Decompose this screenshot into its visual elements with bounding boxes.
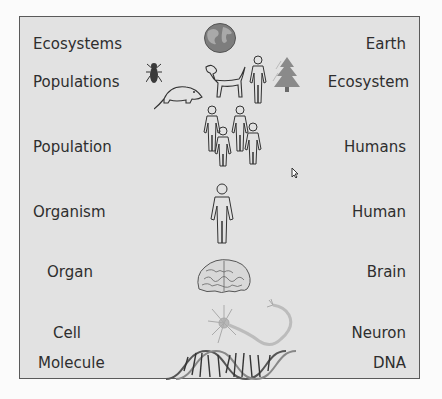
mouse-cursor-icon xyxy=(290,167,300,179)
example-label-neuron: Neuron xyxy=(352,324,406,342)
level-label-ecosystems: Ecosystems xyxy=(33,35,122,53)
brain-icon xyxy=(196,259,252,295)
level-label-organ: Organ xyxy=(47,263,93,281)
group-of-people-icon xyxy=(198,105,268,177)
neuron-icon xyxy=(202,299,312,349)
human-figure-icon xyxy=(209,183,235,245)
level-label-populations: Populations xyxy=(33,73,120,91)
dna-helix-icon xyxy=(164,349,300,381)
level-label-molecule: Molecule xyxy=(38,354,105,372)
example-label-humans: Humans xyxy=(344,138,406,156)
human-figure-small-icon xyxy=(248,55,268,105)
level-label-cell: Cell xyxy=(53,324,81,342)
example-label-human: Human xyxy=(352,203,406,221)
globe-icon xyxy=(203,22,237,54)
example-label-dna: DNA xyxy=(373,354,406,372)
dog-icon xyxy=(200,63,246,99)
example-label-ecosystem: Ecosystem xyxy=(328,73,409,91)
example-label-earth: Earth xyxy=(366,35,406,53)
levels-diagram-frame: Ecosystems Populations Population Organi… xyxy=(19,16,420,379)
level-label-organism: Organism xyxy=(33,203,106,221)
pine-tree-icon xyxy=(272,57,302,93)
example-label-brain: Brain xyxy=(367,263,406,281)
level-label-population: Population xyxy=(33,138,112,156)
